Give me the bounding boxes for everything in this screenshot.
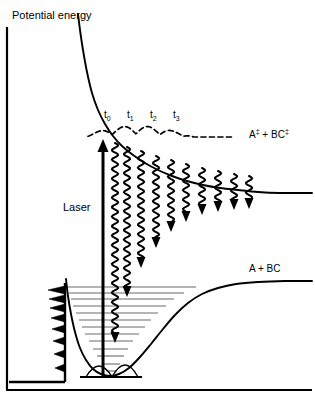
spectrum-spike <box>54 350 65 358</box>
probe-arrow-wave <box>183 164 189 211</box>
spectrum-spike <box>49 295 65 303</box>
spectrum-group <box>9 283 65 382</box>
spectrum-spike <box>48 286 65 294</box>
probe-arrow-wave <box>124 147 130 286</box>
spectrum-spike <box>52 325 65 333</box>
probe-arrow-wave <box>138 151 144 257</box>
upper-state-middle: + BC <box>260 129 285 140</box>
time-marker-t1: t1 <box>127 110 134 122</box>
laser-arrow-head <box>98 139 109 152</box>
probe-arrow-head <box>137 257 146 268</box>
probe-arrow-head <box>167 221 176 232</box>
dagger-icon-2: ‡ <box>285 128 289 135</box>
diagram-canvas <box>0 0 315 405</box>
probe-arrow-wave <box>246 176 252 198</box>
time-marker-subscript: 2 <box>153 115 157 122</box>
probe-arrow-head <box>245 198 254 209</box>
time-marker-subscript: 3 <box>176 115 180 122</box>
spectrum-spike <box>53 337 65 345</box>
probe-arrow-head <box>123 286 132 297</box>
lower-state-label: A + BC <box>249 264 280 274</box>
probe-arrow-head <box>152 237 161 248</box>
laser-label: Laser <box>63 202 91 213</box>
y-axis-label: Potential energy <box>12 10 92 21</box>
spectrum-spike <box>50 304 65 312</box>
time-marker-subscript: 1 <box>130 115 134 122</box>
probe-arrow-head <box>198 204 207 215</box>
probe-arrow-wave <box>215 171 221 201</box>
probe-arrow-wave <box>168 160 174 221</box>
potential-energy-diagram: Potential energy Laser A‡ + BC‡ A + BC t… <box>0 0 315 405</box>
upper-state-text: A <box>249 129 256 140</box>
upper-state-label: A‡ + BC‡ <box>249 128 289 140</box>
probe-arrow-head <box>230 199 239 210</box>
spectrum-spike <box>55 364 65 372</box>
probe-arrow-wave <box>231 174 237 199</box>
upper-repulsive-curve <box>78 14 312 193</box>
time-marker-t0: t0 <box>104 110 111 122</box>
spectrum-spike <box>51 314 65 322</box>
time-marker-subscript: 0 <box>107 115 111 122</box>
time-marker-t3: t3 <box>173 110 180 122</box>
vibrational-levels-group <box>67 287 196 371</box>
probe-arrow-wave <box>112 143 118 332</box>
probe-arrow-head <box>214 201 223 212</box>
probe-arrow-head <box>182 211 191 222</box>
time-marker-t2: t2 <box>150 110 157 122</box>
